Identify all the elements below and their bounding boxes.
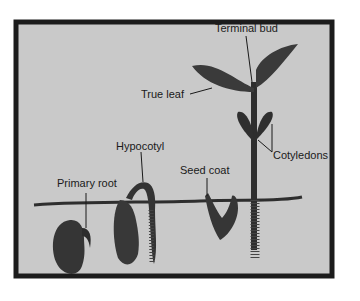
label-hypocotyl: Hypocotyl bbox=[116, 140, 164, 152]
label-seed-coat: Seed coat bbox=[180, 164, 230, 176]
germination-diagram: Terminal bud True leaf Hypocotyl Seed co… bbox=[0, 0, 360, 301]
label-primary-root: Primary root bbox=[57, 177, 117, 189]
label-terminal-bud: Terminal bud bbox=[215, 22, 278, 34]
label-true-leaf: True leaf bbox=[141, 88, 185, 100]
label-cotyledons: Cotyledons bbox=[273, 149, 329, 161]
